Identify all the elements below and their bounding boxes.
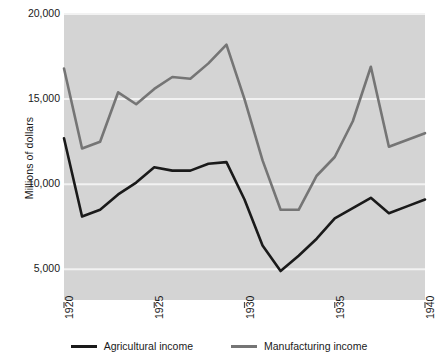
y-tick-label-20000: 20,000 [12, 7, 60, 19]
legend-item-manufacturing-income[interactable]: Manufacturing income [231, 340, 367, 352]
legend-swatch-icon [71, 345, 97, 348]
x-tick-label-1935: 1935 [334, 296, 346, 319]
y-tick-label-5000: 5,000 [12, 262, 60, 274]
x-tick-label-1925: 1925 [153, 296, 165, 319]
x-tick-label-1940: 1940 [424, 296, 436, 319]
plot-background [64, 14, 425, 300]
y-tick-label-15000: 15,000 [12, 92, 60, 104]
legend-item-agricultural-income[interactable]: Agricultural income [71, 340, 193, 352]
y-tick-label-10000: 10,000 [12, 177, 60, 189]
chart-legend: Agricultural incomeManufacturing income [0, 336, 438, 356]
line-chart: Millions of dollars 5,00010,00015,00020,… [0, 0, 438, 361]
x-tick-label-1920: 1920 [63, 296, 75, 319]
legend-label: Agricultural income [104, 340, 193, 352]
legend-swatch-icon [231, 345, 257, 348]
x-tick-label-1930: 1930 [244, 296, 256, 319]
legend-label: Manufacturing income [264, 340, 367, 352]
y-axis-tick-labels: 5,00010,00015,00020,000 [8, 0, 60, 300]
